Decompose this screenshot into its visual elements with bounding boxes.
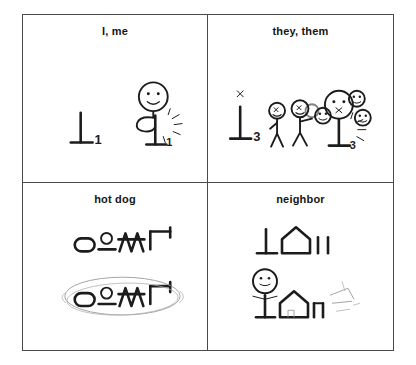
glyph-row-neighbor [257, 227, 328, 253]
figure-glyph-number: 1 [166, 136, 172, 148]
main-glyph-number: 3 [350, 139, 356, 151]
glyph-circle [101, 232, 112, 243]
pictograph-grid: I, me 1 [22, 14, 394, 351]
figure-neighbor-scene [253, 269, 360, 317]
glyph-number-label: 1 [95, 132, 102, 147]
artwork-they-them: 3 [208, 15, 393, 182]
neighbor-head [253, 269, 277, 293]
face-small-c [355, 110, 371, 126]
figure-arm-pointing [137, 117, 155, 131]
figure-walker-2 [292, 100, 312, 145]
figure-head [139, 82, 168, 111]
cell-they-them: they, them 3 [208, 15, 393, 183]
walker2-arm-out [300, 119, 312, 122]
glyph-x-mark [237, 91, 243, 97]
glyph-house [282, 227, 310, 253]
figure-main-glyph-holder: 3 [325, 91, 366, 151]
glyph-perpendicular-three: 3 [230, 91, 260, 144]
figure-eye-right [157, 92, 160, 95]
glyph-perpendicular-one: 1 [71, 113, 102, 148]
cell-hot-dog: hot dog [23, 183, 208, 351]
page-root: I, me 1 [0, 0, 416, 365]
figure-mouth-smile [147, 102, 159, 104]
glyph-number-label: 3 [253, 129, 260, 144]
motion-marks [351, 113, 366, 141]
artwork-i-me: 1 1 [23, 15, 207, 182]
sketch-marks [330, 281, 360, 311]
glyph-row-1 [75, 227, 170, 251]
artwork-hot-dog [23, 183, 207, 351]
figure-person-pointing-self: 1 [137, 82, 182, 148]
cell-neighbor: neighbor [208, 183, 393, 351]
cell-i-me: I, me 1 [23, 15, 208, 183]
glyph-double-peak [119, 233, 143, 251]
artwork-neighbor [208, 183, 393, 351]
main-mouth-x [336, 108, 342, 113]
glyph-row-2 [75, 282, 170, 306]
figure-walker-1 [269, 103, 285, 147]
glyph-oval [75, 238, 95, 251]
figure-eye-left [147, 92, 150, 95]
main-head [325, 91, 353, 119]
